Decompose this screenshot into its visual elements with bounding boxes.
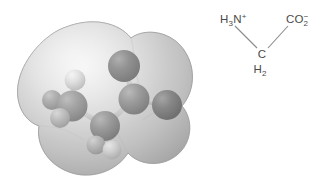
carboxylate-subscript: 2 (304, 19, 309, 28)
label-carboxylate-group: CO−2 (286, 12, 309, 28)
bond-methylene-to-carboxylate (268, 26, 288, 48)
label-methylene-hydrogens: H2 (253, 63, 267, 78)
formula-bond-group (235, 26, 288, 48)
molecular-model-panel (0, 0, 210, 196)
bond-amino-to-methylene (235, 26, 257, 48)
label-methylene-carbon: C (258, 48, 267, 60)
skeletal-formula-panel: H3N+ CO−2 C H2 (210, 0, 325, 196)
carboxylate-co: CO (286, 13, 304, 25)
skeletal-formula-svg: H3N+ CO−2 C H2 (210, 0, 325, 196)
ammonium-charge: + (242, 12, 247, 21)
ammonium-h: H (220, 13, 229, 25)
label-ammonium-group: H3N+ (220, 12, 247, 28)
molecular-model-svg (0, 0, 210, 196)
methylene-c: C (258, 48, 267, 60)
ammonium-n: N (233, 13, 242, 25)
figure-container: H3N+ CO−2 C H2 (0, 0, 325, 196)
methylene-h: H (253, 63, 262, 75)
methylene-h-subscript: 2 (262, 69, 267, 78)
electron-density-surface-overlay (18, 22, 193, 175)
